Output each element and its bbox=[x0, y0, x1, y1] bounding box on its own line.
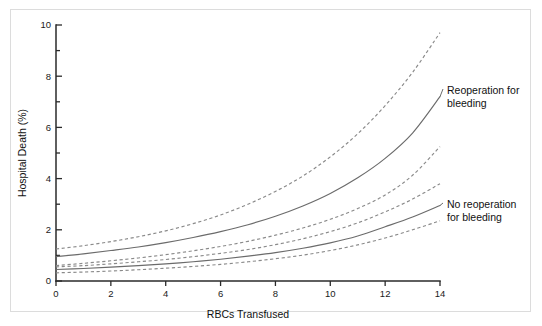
x-axis-title: RBCs Transfused bbox=[207, 308, 289, 320]
y-axis-title: Hospital Death (%) bbox=[16, 109, 28, 197]
annotation-label-no-reoperation-line1: No reoperation bbox=[447, 198, 517, 210]
x-tick-label-0: 0 bbox=[53, 288, 58, 299]
x-tick-label-4: 4 bbox=[163, 288, 168, 299]
x-tick-label-10: 10 bbox=[325, 288, 336, 299]
y-axis-tick-labels: 0246810 bbox=[40, 19, 51, 286]
axes-group bbox=[56, 25, 440, 281]
x-tick-label-14: 14 bbox=[435, 288, 446, 299]
annotation-label-reoperation-line2: bleeding bbox=[447, 97, 487, 109]
y-tick-label-4: 4 bbox=[46, 173, 51, 184]
chart-canvas: 02468101214 0246810 Reoperation forbleed… bbox=[0, 0, 542, 326]
annotations-group: Reoperation forbleedingNo reoperationfor… bbox=[440, 84, 520, 223]
y-tick-label-6: 6 bbox=[46, 122, 51, 133]
x-tick-label-6: 6 bbox=[218, 288, 223, 299]
y-axis-ticks bbox=[56, 25, 62, 281]
y-tick-label-8: 8 bbox=[46, 71, 51, 82]
y-tick-label-2: 2 bbox=[46, 224, 51, 235]
data-series-group bbox=[56, 33, 440, 273]
series-line-2 bbox=[56, 147, 440, 266]
series-line-5 bbox=[56, 221, 440, 273]
annotation-leader-no-reoperation bbox=[440, 203, 443, 205]
figure-container: 02468101214 0246810 Reoperation forbleed… bbox=[0, 0, 542, 326]
x-tick-label-8: 8 bbox=[273, 288, 278, 299]
x-tick-label-12: 12 bbox=[380, 288, 391, 299]
annotation-leader-reoperation bbox=[440, 89, 443, 97]
series-line-3 bbox=[56, 184, 440, 267]
series-line-4 bbox=[56, 205, 440, 269]
y-tick-label-0: 0 bbox=[46, 275, 51, 286]
x-axis-tick-labels: 02468101214 bbox=[53, 288, 445, 299]
annotation-label-no-reoperation-line2: for bleeding bbox=[447, 211, 502, 223]
annotation-label-reoperation-line1: Reoperation for bbox=[447, 84, 520, 96]
y-tick-label-10: 10 bbox=[40, 19, 51, 30]
series-line-0 bbox=[56, 33, 440, 249]
series-line-1 bbox=[56, 97, 440, 257]
x-tick-label-2: 2 bbox=[108, 288, 113, 299]
